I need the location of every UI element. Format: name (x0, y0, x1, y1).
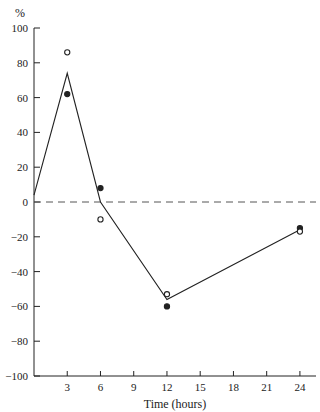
x-tick-label: 3 (64, 381, 70, 393)
y-tick-label: 80 (17, 57, 29, 69)
y-axis-label: % (15, 6, 25, 20)
data-series (34, 50, 303, 309)
y-tick-label: 60 (17, 92, 29, 104)
x-tick-label: 15 (195, 381, 207, 393)
x-tick-label: 24 (294, 381, 306, 393)
y-tick-label: −80 (11, 335, 29, 347)
y-tick-label: 40 (17, 126, 29, 138)
y-tick-label: −40 (11, 266, 29, 278)
filled-circle-point (65, 92, 70, 97)
line-chart: % 100806040200−20−40−60−80−100 369121518… (0, 0, 320, 412)
x-axis-ticks: 3691215182124 (64, 371, 305, 393)
filled-circle-point (98, 185, 103, 190)
y-tick-label: 20 (17, 161, 29, 173)
y-tick-label: 0 (23, 196, 29, 208)
open-circle-point (297, 229, 302, 234)
x-tick-label: 9 (131, 381, 137, 393)
x-tick-label: 12 (161, 381, 172, 393)
y-tick-label: −20 (11, 231, 29, 243)
y-tick-label: 100 (12, 22, 29, 34)
y-tick-label: −100 (5, 370, 28, 382)
mean-line (34, 73, 300, 299)
open-circle-point (98, 217, 103, 222)
open-circle-point (164, 292, 169, 297)
y-tick-label: −60 (11, 300, 29, 312)
x-tick-label: 18 (228, 381, 240, 393)
x-tick-label: 21 (261, 381, 272, 393)
filled-circle-point (164, 304, 169, 309)
x-axis-label: Time (hours) (144, 397, 207, 411)
open-circle-point (65, 50, 70, 55)
x-tick-label: 6 (98, 381, 104, 393)
